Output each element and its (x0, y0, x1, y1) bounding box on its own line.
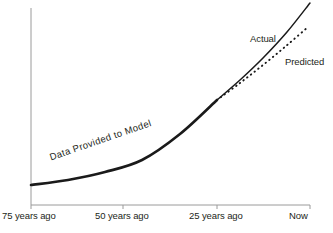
x-axis-label-now: Now (289, 210, 308, 221)
x-axis-label-25-years-ago: 25 years ago (189, 210, 243, 221)
chart-container: Data Provided to Model Actual Predicted … (0, 0, 333, 233)
series-line-actual (217, 3, 310, 100)
series-label-predicted: Predicted (285, 56, 324, 67)
chart-plot-area (0, 0, 333, 233)
x-axis-label-50-years-ago: 50 years ago (95, 210, 149, 221)
x-axis-label-75-years-ago: 75 years ago (2, 210, 56, 221)
series-line-data-provided (31, 100, 217, 185)
series-label-actual: Actual (250, 33, 276, 44)
